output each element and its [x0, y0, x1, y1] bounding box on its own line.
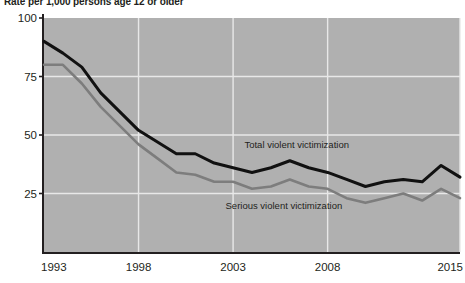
x-axis-tick-label: 2003: [220, 261, 246, 273]
x-axis-tick-label: 2015: [437, 261, 463, 273]
y-axis-tick-label: 25: [24, 188, 37, 200]
x-axis-tick-label: 2008: [315, 261, 341, 273]
x-axis-tick-label: 1993: [41, 261, 67, 273]
chart-plot-area: 255075100 19931998200320082015 Total vio…: [0, 0, 465, 283]
series-label-serious: Serious violent victimization: [226, 200, 343, 211]
y-axis-tick-label: 100: [18, 12, 37, 24]
victimization-rate-chart: Rate per 1,000 persons age 12 or older 2…: [0, 0, 465, 283]
x-axis-tick-label: 1998: [126, 261, 152, 273]
y-axis-tick-label: 75: [24, 71, 37, 83]
series-label-total: Total violent victimization: [244, 139, 349, 150]
y-axis-tick-label: 50: [24, 129, 37, 141]
